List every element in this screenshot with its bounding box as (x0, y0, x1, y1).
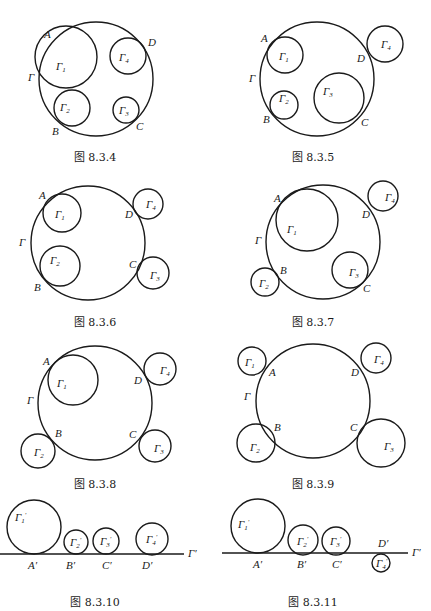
circle-label: Γ1 (56, 377, 67, 391)
figure-caption: 图 8.3.9 (292, 478, 335, 491)
point-label: D (361, 208, 370, 220)
point-label: B′ (66, 559, 76, 571)
circle-g4 (368, 181, 398, 211)
point-label: A (38, 189, 46, 201)
point-label: B (280, 264, 287, 276)
circle-label: Γ3 (149, 269, 160, 283)
point-label: B (52, 125, 59, 137)
circle-label: Γ3 (118, 104, 129, 118)
circle-label: Γ3 (383, 440, 394, 454)
circle-label: Γ4 (145, 198, 156, 212)
point-label: Γ′ (411, 546, 421, 558)
circle-label: Γ4 (384, 191, 395, 205)
figure-sheet: Γ1Γ2Γ3Γ4ABCDΓ图 8.3.4Γ1Γ2Γ3Γ4ABCDΓ图 8.3.5… (0, 0, 431, 611)
figure-caption: 图 8.3.5 (292, 151, 335, 164)
point-label: C (363, 282, 371, 294)
circle-g2 (40, 246, 80, 286)
circle-label: Γ4 (159, 364, 170, 378)
point-label: Γ′ (187, 547, 197, 559)
fig-8-3-4: Γ1Γ2Γ3Γ4ABCDΓ图 8.3.4 (27, 22, 156, 164)
point-label: D′ (377, 537, 389, 549)
point-label: C (136, 120, 144, 132)
point-label: B (263, 113, 270, 125)
point-label: Γ (18, 236, 26, 248)
circle-label: Γ2 (59, 101, 70, 115)
fig-8-3-7: Γ1Γ2Γ3Γ4ABCDΓ图 8.3.7 (251, 181, 398, 329)
circle-g1-prime (7, 500, 61, 554)
circle-g1 (43, 194, 81, 232)
circle-g3 (357, 419, 405, 467)
circle-label: Γ2 (33, 446, 44, 460)
point-label: A′ (252, 558, 263, 570)
circle-label: Γ1′ (14, 511, 27, 525)
circle-g3 (314, 73, 364, 123)
figure-caption: 图 8.3.7 (292, 316, 335, 329)
circle-label: Γ1 (55, 60, 66, 74)
point-label: A (42, 355, 50, 367)
point-label: Γ (26, 394, 34, 406)
circle-label: Γ1′ (237, 518, 250, 532)
circle-label: Γ2 (258, 277, 269, 291)
circle-g1 (238, 347, 266, 375)
circle-label: Γ3 (322, 85, 333, 99)
figure-caption: 图 8.3.8 (74, 478, 117, 491)
circle-label: Γ3′ (99, 535, 112, 549)
point-label: D (124, 208, 133, 220)
point-label: D (350, 366, 359, 378)
circle-label: Γ2 (278, 92, 289, 106)
figure-caption: 图 8.3.10 (70, 596, 119, 609)
circle-label: Γ4 (118, 51, 129, 65)
circle-g (256, 344, 370, 458)
point-label: C (350, 421, 358, 433)
circle-label: Γ3 (348, 266, 359, 280)
fig-8-3-10: Γ1′Γ2′Γ3′Γ4′A′B′C′D′Γ′图 8.3.10 (0, 500, 197, 609)
point-label: A (273, 192, 281, 204)
point-label: D (147, 36, 156, 48)
circle-g1 (48, 355, 98, 405)
figure-caption: 图 8.3.11 (288, 596, 337, 609)
point-label: D (133, 374, 142, 386)
circle-g1 (276, 189, 338, 251)
point-label: B (274, 421, 281, 433)
point-label: Γ (248, 72, 256, 84)
point-label: A (268, 366, 276, 378)
point-label: B′ (297, 558, 307, 570)
circle-label: Γ2′ (69, 536, 82, 550)
circle-label: Γ3 (153, 442, 164, 456)
point-label: C (361, 116, 369, 128)
point-label: Γ (27, 71, 35, 83)
point-label: B (55, 427, 62, 439)
circle-label: Γ1 (54, 208, 65, 222)
circle-label: Γ2′ (296, 535, 309, 549)
fig-8-3-5: Γ1Γ2Γ3Γ4ABCDΓ图 8.3.5 (248, 22, 403, 164)
fig-8-3-8: Γ1Γ2Γ3Γ4ABCDΓ图 8.3.8 (21, 346, 176, 491)
circle-label: Γ2 (49, 254, 60, 268)
circle-label: Γ4′ (145, 533, 158, 547)
fig-8-3-6: Γ1Γ2Γ3Γ4ABCDΓ图 8.3.6 (18, 186, 169, 329)
point-label: B (34, 281, 41, 293)
circle-label: Γ4 (380, 38, 391, 52)
point-label: D′ (141, 559, 153, 571)
point-label: C′ (332, 558, 342, 570)
circle-label: Γ4 (373, 353, 384, 367)
figure-caption: 图 8.3.4 (74, 151, 117, 164)
point-label: A (260, 32, 268, 44)
point-label: C (129, 258, 137, 270)
circle-label: Γ1 (286, 223, 297, 237)
circle-label: Γ4′ (375, 557, 388, 571)
fig-8-3-9: Γ1Γ2Γ3Γ4ABCDΓ图 8.3.9 (237, 343, 405, 491)
point-label: A′ (27, 559, 38, 571)
point-label: C (129, 428, 137, 440)
circle-label: Γ1 (278, 50, 289, 64)
circle-label: Γ2 (249, 441, 260, 455)
point-label: C′ (102, 559, 112, 571)
figure-caption: 图 8.3.6 (74, 316, 117, 329)
circle-g4 (110, 38, 146, 74)
point-label: D (356, 52, 365, 64)
point-label: Γ (254, 234, 262, 246)
circle-label: Γ1 (244, 356, 255, 370)
fig-8-3-11: Γ1′Γ2′Γ3′Γ4′A′B′C′D′Γ′图 8.3.11 (222, 499, 421, 609)
point-label: A (43, 28, 51, 40)
circle-label: Γ3′ (329, 535, 342, 549)
point-label: Γ (243, 390, 251, 402)
